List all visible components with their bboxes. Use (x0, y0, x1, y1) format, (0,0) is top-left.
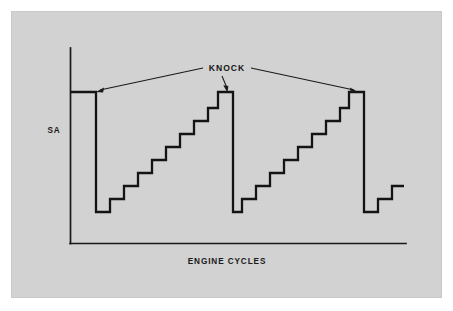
figure-root: KNOCK SA ENGINE CYCLES (0, 0, 453, 311)
knock-arrowhead-left (96, 87, 104, 92)
x-axis-label: ENGINE CYCLES (188, 257, 267, 266)
knock-leader-right (251, 68, 354, 90)
knock-arrowhead-right (350, 87, 358, 92)
knock-callout-label: KNOCK (209, 63, 246, 73)
knock-leader-left (100, 68, 203, 90)
spark-advance-waveform (70, 92, 404, 212)
y-axis-label: SA (47, 126, 60, 135)
knock-control-diagram: KNOCK SA ENGINE CYCLES (0, 0, 453, 311)
